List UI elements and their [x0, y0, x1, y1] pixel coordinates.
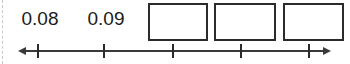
right-arrowhead-icon: [323, 47, 331, 55]
left-arrowhead-icon: [18, 47, 26, 55]
number-line-worksheet: 0.08 0.09: [0, 0, 350, 64]
number-line-axis: [0, 0, 350, 64]
